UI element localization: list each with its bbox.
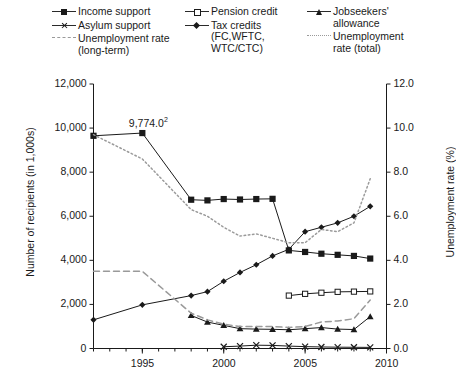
y-axis-right-title: Unemployment rate (%) [444,112,456,292]
series-tax-credits-fc-wftc-wtc-ctc [90,203,373,323]
axis-tick-label: 2,000 [61,297,87,309]
y-axis-left-title: Number of recipients (in 1,000s) [24,112,36,292]
axis-tick-label: 2000 [212,357,235,369]
axis-tick-label: 6.0 [394,209,409,221]
series-pension-credit [286,289,373,298]
axis-tick-label: 8.0 [394,165,409,177]
data-annotation: 9,774.02 [129,116,168,129]
axis-tick-label: 4.0 [394,253,409,265]
series-unemployment-rate-long-term [94,271,371,327]
axis-tick-label: 4,000 [61,253,87,265]
axis-tick-label: 2.0 [394,297,409,309]
axis-tick-label: 2010 [375,357,398,369]
axis-tick-label: 12.0 [394,77,414,89]
axis-tick-label: 8,000 [61,165,87,177]
axis-tick-label: 6,000 [61,209,87,221]
axis-tick-label: 2005 [294,357,317,369]
axis-tick-label: 1995 [131,357,154,369]
series-unemployment-rate-total [94,135,371,243]
series-asylum-support [221,342,374,350]
axis-tick-label: 12,000 [55,77,87,89]
axis-tick-label: 10.0 [394,121,414,133]
series-income-support [90,130,373,262]
axis-tick-label: 10,000 [55,121,87,133]
axis-tick-label: 0 [81,342,87,354]
axis-tick-label: 0.0 [394,342,409,354]
